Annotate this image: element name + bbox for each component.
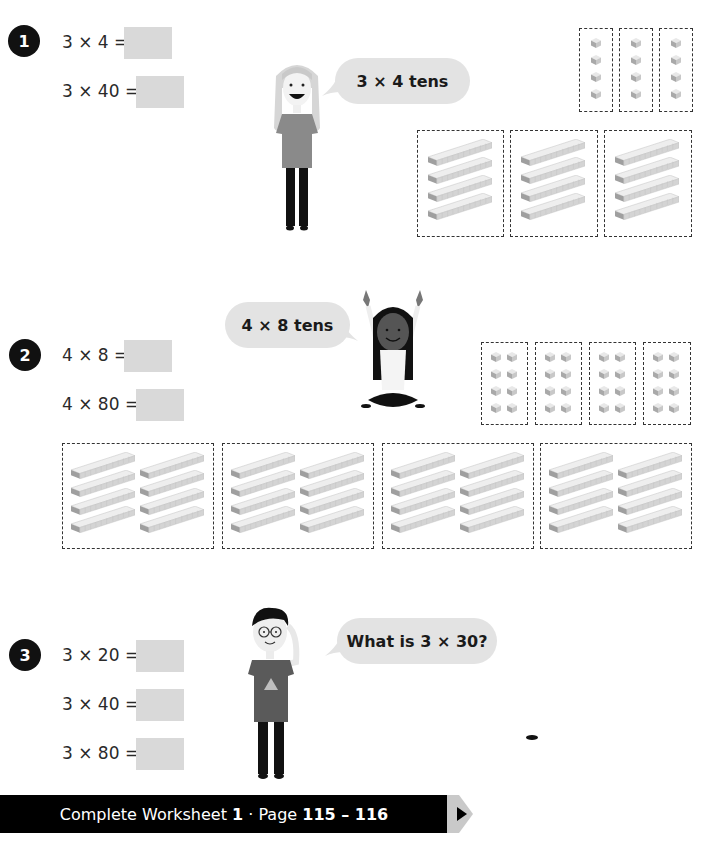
equation-row: 3 × 40 = [62,689,139,719]
unit-cube-icon [671,38,681,48]
ten-rod-icon [71,506,135,533]
question-number-badge: 2 [9,339,41,371]
unit-cube-icon [631,72,641,82]
unit-cube-icon [669,403,679,413]
unit-cube-icon [591,55,601,65]
speech-bubble-tail [340,325,358,341]
unit-cube-icon [653,352,663,362]
answer-box[interactable] [136,640,184,672]
footer-banner[interactable]: Complete Worksheet 1 · Page 115 – 116 [0,795,448,833]
equation-row: 4 × 8 = [62,340,128,370]
unit-cube-icon [545,386,555,396]
speech-bubble-text: 3 × 4 tens [357,72,449,91]
unit-cube-icon [599,352,609,362]
question-number: 3 [19,646,30,665]
unit-cube-icon [671,55,681,65]
equation-row: 3 × 20 = [62,640,139,670]
ten-rod-icon [549,506,613,533]
answer-box[interactable] [136,689,184,721]
unit-cube-icon [561,352,571,362]
tens-group [222,443,374,549]
unit-cube-icon [561,369,571,379]
unit-cube-icon [561,403,571,413]
tens-group [540,443,692,549]
unit-cube-icon [545,403,555,413]
girl-sitting-illustration [358,290,428,414]
ones-group [579,28,613,112]
unit-cube-icon [599,403,609,413]
question-number: 2 [19,346,30,365]
ones-group [535,342,582,425]
unit-cube-icon [653,403,663,413]
speech-bubble-text: 4 × 8 tens [242,316,334,335]
question-number: 1 [18,32,29,51]
question-number-badge: 1 [8,25,40,57]
boy-illustration [240,604,310,782]
unit-cube-icon [561,386,571,396]
unit-cube-icon [615,369,625,379]
equation-row: 3 × 40 = [62,76,139,106]
speech-bubble-text: What is 3 × 30? [347,632,488,651]
footer-prefix: Complete Worksheet [60,805,232,824]
unit-cube-icon [653,369,663,379]
unit-cube-icon [491,403,501,413]
equation-label: 3 × 20 = [62,645,139,665]
equation-label: 3 × 80 = [62,743,139,763]
unit-cube-icon [591,72,601,82]
unit-cube-icon [507,369,517,379]
unit-cube-icon [631,89,641,99]
unit-cube-icon [669,352,679,362]
ones-group [619,28,653,112]
unit-cube-icon [631,38,641,48]
ten-rod-icon [618,506,682,533]
equation-label: 3 × 40 = [62,81,139,101]
unit-cube-icon [599,369,609,379]
unit-cube-icon [615,352,625,362]
tens-group [604,130,692,237]
unit-cube-icon [615,403,625,413]
answer-box[interactable] [136,76,184,108]
footer-worksheet-number: 1 [232,805,243,824]
answer-box[interactable] [136,389,184,421]
unit-cube-icon [507,403,517,413]
ten-rod-icon [428,193,492,220]
ten-rod-icon [460,506,524,533]
question-number-badge: 3 [9,639,41,671]
equation-label: 4 × 8 = [62,345,128,365]
ones-group [659,28,693,112]
unit-cube-icon [599,386,609,396]
pencil-tip-arrow-icon [447,795,475,833]
ones-group [589,342,636,425]
unit-cube-icon [545,352,555,362]
unit-cube-icon [507,386,517,396]
speech-bubble: 3 × 4 tens [335,58,470,104]
ten-rod-icon [300,506,364,533]
equation-label: 4 × 80 = [62,394,139,414]
unit-cube-icon [669,369,679,379]
answer-box[interactable] [124,27,172,59]
unit-cube-icon [669,386,679,396]
unit-cube-icon [545,369,555,379]
answer-box[interactable] [136,738,184,770]
unit-cube-icon [671,72,681,82]
equation-label: 3 × 4 = [62,32,128,52]
equation-label: 3 × 40 = [62,694,139,714]
unit-cube-icon [671,89,681,99]
answer-box[interactable] [124,340,172,372]
unit-cube-icon [591,38,601,48]
ten-rod-icon [140,506,204,533]
ten-rod-icon [615,193,679,220]
tens-group [62,443,214,549]
equation-row: 3 × 4 = [62,27,128,57]
speech-bubble-tail [325,640,345,656]
speech-bubble: What is 3 × 30? [337,618,497,664]
unit-cube-icon [653,386,663,396]
tens-group [510,130,598,237]
unit-cube-icon [491,352,501,362]
unit-cube-icon [491,369,501,379]
unit-cube-icon [491,386,501,396]
unit-cube-icon [615,386,625,396]
equation-row: 4 × 80 = [62,389,139,419]
tens-group [417,130,504,237]
ones-group [643,342,691,425]
